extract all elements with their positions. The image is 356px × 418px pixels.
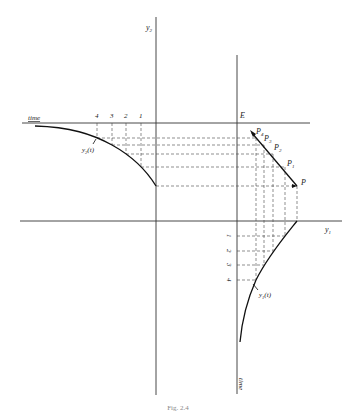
point-label-p: P [300,178,306,187]
time-label-right: time [237,378,245,390]
time-tick-top-4: 4 [95,112,99,120]
y2-curve-label: y2(t) [81,146,95,155]
time-tick-right-1: 1 [225,234,233,238]
time-tick-top-3: 3 [109,112,114,120]
time-tick-right-4: 4 [225,278,233,282]
time-tick-top-1: 1 [139,112,143,120]
projection-lines [97,123,297,280]
time-tick-right-3: 3 [225,262,233,267]
y1-curve-label: y1(t) [258,291,272,300]
y2-curve [35,126,156,186]
point-label-p1: P1 [286,159,294,169]
figure-caption: Fig. 2.4 [0,404,356,412]
point-label-p4: P4 [255,127,264,137]
y1-axis-label: y1 [324,225,331,235]
time-tick-top-2: 2 [124,112,128,120]
time-label-top: time [28,114,40,122]
point-label-p2: P2 [273,143,282,153]
y2-axis-label: y2 [145,23,153,33]
point-label-p3: P3 [263,134,272,144]
y2-label-pointer [93,139,96,144]
y1-curve [240,221,297,342]
time-tick-right-2: 2 [225,249,233,253]
phase-plane-diagram: y2 y1 time time E 4 3 2 1 1 2 3 4 y2(t) … [0,0,356,418]
origin-label-e: E [239,111,245,120]
